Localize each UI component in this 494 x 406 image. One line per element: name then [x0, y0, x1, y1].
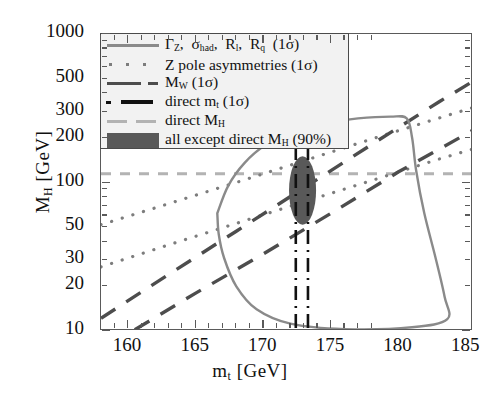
y-tick-label: 10	[0, 317, 92, 339]
tick-mark	[276, 35, 277, 40]
tick-mark	[316, 35, 317, 40]
x-tick-label: 165	[171, 334, 219, 356]
tick-mark	[465, 66, 470, 67]
tick-mark	[102, 330, 110, 331]
tick-mark	[371, 35, 372, 40]
tick-mark	[102, 285, 107, 286]
dashed-line-key	[105, 74, 165, 93]
tick-mark	[465, 40, 470, 41]
legend-item-direct-mt: direct mt (1σ)	[105, 93, 348, 112]
tick-mark	[465, 214, 470, 215]
tick-mark	[465, 259, 470, 260]
tick-mark	[249, 323, 250, 328]
x-tick-label: 175	[306, 334, 354, 356]
tick-mark	[102, 33, 110, 34]
tick-mark	[235, 35, 236, 40]
y-tick-label: 1000	[0, 20, 92, 42]
filled-box-key	[105, 131, 165, 150]
tick-mark	[462, 330, 470, 331]
tick-mark	[154, 35, 155, 40]
legend-item-all-except: all except direct MH (90%)	[105, 131, 348, 150]
tick-mark	[465, 78, 470, 79]
tick-mark	[465, 196, 470, 197]
tick-mark	[343, 323, 344, 328]
tick-mark	[102, 214, 107, 215]
y-tick-label: 300	[0, 98, 92, 120]
tick-mark	[289, 323, 290, 328]
tick-mark	[100, 323, 101, 328]
tick-mark	[102, 241, 107, 242]
dotted-line-key	[105, 55, 165, 74]
tick-mark	[303, 323, 304, 328]
tick-mark	[102, 47, 107, 48]
tick-mark	[102, 56, 107, 57]
tick-mark	[465, 111, 470, 112]
tick-mark	[465, 56, 470, 57]
dash-dot-line-key	[105, 93, 165, 112]
tick-mark	[127, 35, 128, 43]
x-tick-label: 160	[103, 334, 151, 356]
tick-mark	[465, 241, 470, 242]
tick-mark	[102, 78, 107, 79]
tick-mark	[303, 35, 304, 40]
tick-mark	[102, 66, 107, 67]
tick-mark	[462, 33, 470, 34]
tick-mark	[127, 320, 128, 328]
tick-mark	[141, 323, 142, 328]
tick-mark	[102, 111, 107, 112]
tick-mark	[222, 35, 223, 40]
tick-mark	[465, 226, 470, 227]
tick-mark	[102, 226, 107, 227]
tick-mark	[181, 35, 182, 40]
tick-mark	[465, 205, 470, 206]
tick-mark	[195, 35, 196, 43]
y-tick-label: 200	[0, 124, 92, 146]
tick-mark	[195, 320, 196, 328]
tick-mark	[102, 182, 110, 183]
tick-mark	[102, 259, 107, 260]
legend-label-gamma-z: ΓZ, σhad, Rl, Rq (1σ)	[165, 34, 299, 57]
tick-mark	[465, 47, 470, 48]
tick-mark	[168, 35, 169, 40]
tick-mark	[102, 40, 107, 41]
tick-mark	[102, 92, 107, 93]
legend-label-all-except: all except direct MH (90%)	[165, 129, 331, 152]
tick-mark	[208, 323, 209, 328]
tick-mark	[114, 35, 115, 40]
tick-mark	[465, 137, 470, 138]
x-axis-label: mt [GeV]	[180, 360, 320, 384]
tick-mark	[330, 35, 331, 43]
tick-mark	[371, 323, 372, 328]
x-tick-label: 185	[441, 334, 489, 356]
tick-mark	[102, 188, 107, 189]
tick-mark	[330, 320, 331, 328]
tick-mark	[235, 323, 236, 328]
tick-mark	[222, 323, 223, 328]
tick-mark	[141, 35, 142, 40]
tick-mark	[102, 196, 107, 197]
tick-mark	[262, 320, 263, 328]
tick-mark	[465, 92, 470, 93]
y-tick-label: 20	[0, 272, 92, 294]
legend-item-z-pole: Z pole asymmetries (1σ)	[105, 55, 348, 74]
tick-mark	[276, 323, 277, 328]
tick-mark	[316, 323, 317, 328]
tick-mark	[181, 323, 182, 328]
tick-mark	[462, 182, 470, 183]
tick-mark	[168, 323, 169, 328]
tick-mark	[114, 323, 115, 328]
x-tick-label: 170	[238, 334, 286, 356]
tick-mark	[357, 323, 358, 328]
y-tick-label: 500	[0, 65, 92, 87]
tick-mark	[102, 137, 107, 138]
tick-mark	[102, 205, 107, 206]
y-tick-label: 30	[0, 246, 92, 268]
tick-mark	[208, 35, 209, 40]
tick-mark	[465, 285, 470, 286]
all-except-direct-mh-ellipse	[289, 156, 316, 224]
tick-mark	[357, 35, 358, 40]
mh-band-key	[105, 112, 165, 131]
tick-mark	[154, 323, 155, 328]
x-tick-label: 180	[374, 334, 422, 356]
y-tick-label: 50	[0, 213, 92, 235]
